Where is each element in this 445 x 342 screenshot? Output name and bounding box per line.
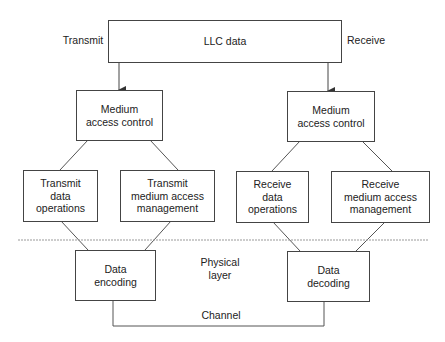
transmit-mac-management-box: Transmit medium access management xyxy=(120,170,215,222)
physical-layer-label: Physical layer xyxy=(190,256,250,281)
receive-data-operations-box: Receive data operations xyxy=(236,171,309,223)
data-decoding-box: Data decoding xyxy=(287,251,370,302)
data-encoding-box: Data encoding xyxy=(75,250,156,301)
channel-label: Channel xyxy=(190,309,252,322)
mac-right-box: Medium access control xyxy=(287,91,375,142)
mac-left-box: Medium access control xyxy=(76,90,163,141)
receive-label: Receive xyxy=(343,34,389,47)
llc-data-box: LLC data xyxy=(108,20,342,63)
receive-mac-management-box: Receive medium access management xyxy=(331,171,430,223)
transmit-data-operations-box: Transmit data operations xyxy=(23,170,98,222)
transmit-label: Transmit xyxy=(60,34,106,47)
